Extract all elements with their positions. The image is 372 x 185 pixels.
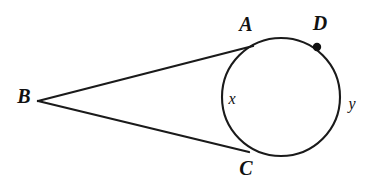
label-arc-y: y — [346, 95, 356, 113]
label-arc-x: x — [227, 90, 235, 107]
label-point-d: D — [312, 12, 327, 34]
label-point-b: B — [16, 85, 30, 107]
label-point-c: C — [239, 157, 253, 179]
label-point-a: A — [237, 13, 252, 35]
geometry-diagram: B A C D x y — [0, 0, 372, 185]
point-d-dot — [313, 43, 321, 51]
geometry-canvas: B A C D x y — [0, 0, 372, 185]
